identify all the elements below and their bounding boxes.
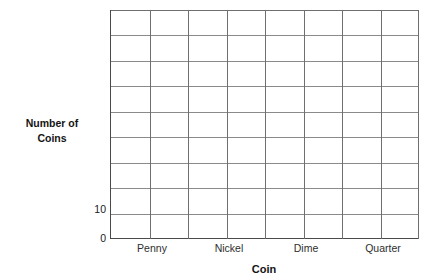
x-axis-title: Coin (110, 263, 418, 275)
y-axis-title-line1: Number of (0, 116, 104, 131)
plot-area (110, 10, 418, 239)
y-axis-title: Number of Coins (0, 116, 104, 146)
grid-lines (111, 10, 419, 239)
y-axis-title-line2: Coins (0, 131, 104, 146)
x-axis-tick-label-quarter: Quarter (338, 242, 428, 255)
y-axis-tick-label-10: 10 (80, 204, 106, 215)
y-axis-tick-label-0: 0 (80, 233, 106, 244)
chart-title: Coins (0, 0, 434, 2)
